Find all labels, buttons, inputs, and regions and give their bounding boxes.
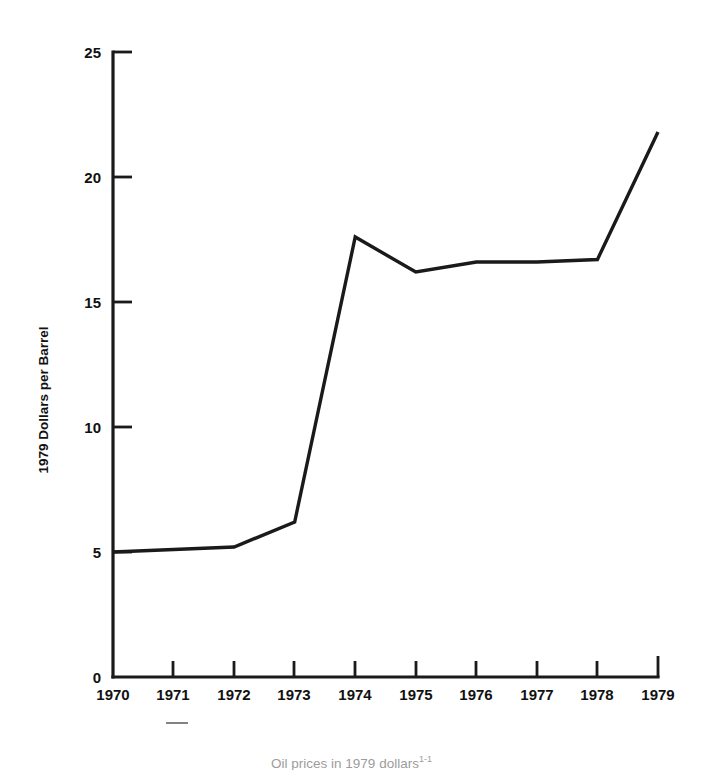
y-tick-label-10: 10 [84,419,101,436]
y-tick-label-15: 15 [84,294,101,311]
x-tick-label-1978: 1978 [580,686,613,703]
y-tick-label-0: 0 [93,669,101,686]
x-tick-label-1970: 1970 [96,686,129,703]
x-tick-label-1975: 1975 [399,686,432,703]
y-axis-title: 1979 Dollars per Barrel [36,326,51,473]
caption-rule [166,722,188,724]
y-tick-label-5: 5 [93,544,101,561]
x-tick-label-1973: 1973 [277,686,310,703]
y-tick-label-20: 20 [84,169,101,186]
x-tick-label-1971: 1971 [156,686,189,703]
caption-marker: 1-1 [419,754,432,764]
caption-label: Oil prices in 1979 dollars [271,755,419,770]
x-tick-label-1976: 1976 [459,686,492,703]
y-tick-label-25: 25 [84,44,101,61]
figure-caption: Oil prices in 1979 dollars1-1 [0,754,703,770]
x-tick-label-1977: 1977 [520,686,553,703]
x-tick-label-1974: 1974 [338,686,372,703]
x-tick-label-1972: 1972 [217,686,250,703]
x-tick-label-1979: 1979 [641,686,674,703]
data-series-line [113,132,658,552]
